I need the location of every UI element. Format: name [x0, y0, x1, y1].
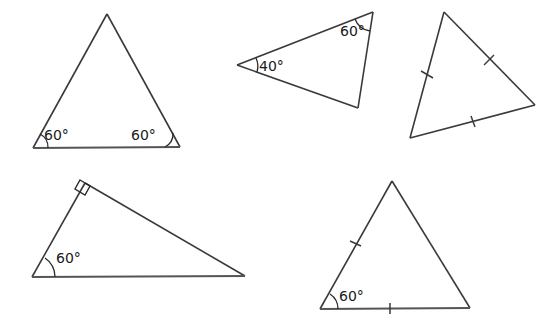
triangle-4-side-bottom [32, 276, 245, 277]
triangle-1: 60° 60° [33, 14, 180, 148]
triangle-2-angle-label-left: 40° [259, 58, 284, 74]
triangle-3 [410, 12, 535, 138]
triangle-1-angle-arc-right [165, 133, 173, 147]
triangle-2-angle-arc-left [256, 58, 258, 72]
triangle-5-side-bottom [320, 308, 470, 309]
triangle-1-angle-label-right: 60° [131, 127, 156, 143]
triangle-4-side-hypotenuse [85, 183, 245, 276]
triangle-2: 40° 60° [237, 12, 373, 108]
triangle-4-angle-arc-left [45, 258, 55, 277]
triangle-4-angle-label-left: 60° [56, 250, 81, 266]
triangle-1-angle-label-left: 60° [44, 127, 69, 143]
triangle-4: 60° [32, 180, 245, 277]
triangle-2-angle-label-top: 60° [340, 23, 365, 39]
figure-canvas: 60° 60° 40° 60° [0, 0, 560, 326]
triangle-1-side-bottom [33, 147, 180, 148]
triangle-5-angle-arc-left [330, 294, 338, 309]
triangle-3-tick-right [484, 55, 494, 65]
triangle-5-side-right [392, 181, 470, 308]
triangles-diagram: 60° 60° 40° 60° [0, 0, 560, 326]
triangle-2-side-bottom [237, 65, 358, 108]
triangle-5: 60° [320, 181, 470, 314]
triangle-5-angle-label-left: 60° [339, 288, 364, 304]
